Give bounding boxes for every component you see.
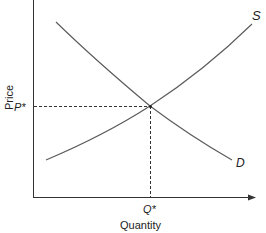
- equilibrium-point: [149, 105, 152, 108]
- p-star-label: P*: [14, 101, 26, 113]
- supply-label: S: [252, 8, 261, 23]
- supply-demand-diagram: S D P* Q* Quantity Price: [0, 0, 266, 233]
- demand-label: D: [236, 156, 245, 170]
- x-axis-title: Quantity: [120, 219, 161, 231]
- y-axis-title: Price: [3, 85, 15, 110]
- x-axis-arrow-icon: [248, 195, 256, 201]
- supply-curve: [46, 24, 252, 160]
- demand-curve: [56, 22, 232, 160]
- q-star-label: Q*: [143, 203, 157, 215]
